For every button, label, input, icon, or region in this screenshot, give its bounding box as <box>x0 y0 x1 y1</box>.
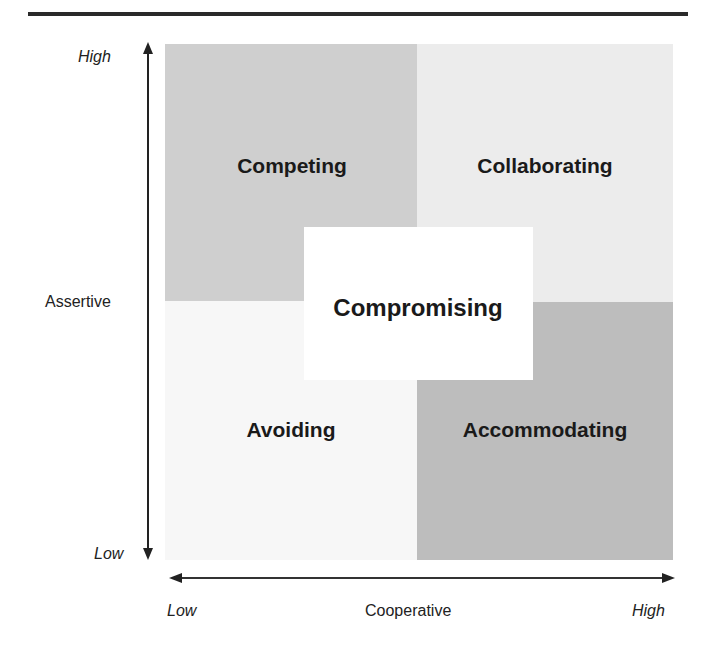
y-axis-high-label: High <box>78 48 111 66</box>
x-axis-high-label: High <box>632 602 665 620</box>
y-axis-line <box>147 50 149 553</box>
top-rule <box>28 12 688 16</box>
label-competing: Competing <box>237 154 347 178</box>
label-avoiding: Avoiding <box>246 418 335 442</box>
label-collaborating: Collaborating <box>477 154 612 178</box>
label-compromising: Compromising <box>333 294 502 322</box>
label-accommodating: Accommodating <box>463 418 628 442</box>
arrow-right-icon <box>662 573 675 583</box>
arrow-up-icon <box>143 42 153 54</box>
arrow-down-icon <box>143 548 153 560</box>
x-axis-line <box>176 577 668 579</box>
arrow-left-icon <box>169 573 182 583</box>
y-axis-low-label: Low <box>94 545 123 563</box>
x-axis-low-label: Low <box>167 602 196 620</box>
x-axis-title: Cooperative <box>365 602 451 620</box>
y-axis-title: Assertive <box>45 293 111 311</box>
